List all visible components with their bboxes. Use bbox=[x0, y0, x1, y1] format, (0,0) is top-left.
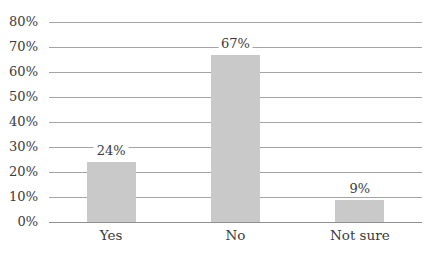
y-tick-label-20: 20% bbox=[0, 164, 38, 180]
y-tick-label-60: 60% bbox=[0, 64, 38, 80]
x-tick-label-not-sure: Not sure bbox=[330, 227, 390, 243]
x-axis-line bbox=[49, 222, 422, 223]
y-tick-label-0: 0% bbox=[0, 214, 38, 230]
bar-value-label-no: 67% bbox=[218, 36, 253, 51]
x-tick-label-yes: Yes bbox=[100, 227, 123, 243]
bar-chart: 24%67%9% 0%10%20%30%40%50%60%70%80% YesN… bbox=[0, 0, 438, 255]
y-tick-label-70: 70% bbox=[0, 39, 38, 55]
plot-area: 24%67%9% bbox=[49, 22, 422, 222]
gridline-80 bbox=[49, 22, 422, 23]
y-tick-label-30: 30% bbox=[0, 139, 38, 155]
bar-yes bbox=[87, 162, 136, 222]
bar-value-label-yes: 24% bbox=[94, 143, 129, 158]
bar-value-label-not-sure: 9% bbox=[347, 181, 374, 196]
bar-not-sure bbox=[335, 200, 384, 223]
bar-no bbox=[211, 55, 260, 223]
y-tick-label-40: 40% bbox=[0, 114, 38, 130]
y-tick-label-50: 50% bbox=[0, 89, 38, 105]
y-tick-label-80: 80% bbox=[0, 14, 38, 30]
x-tick-label-no: No bbox=[226, 227, 246, 243]
y-tick-label-10: 10% bbox=[0, 189, 38, 205]
